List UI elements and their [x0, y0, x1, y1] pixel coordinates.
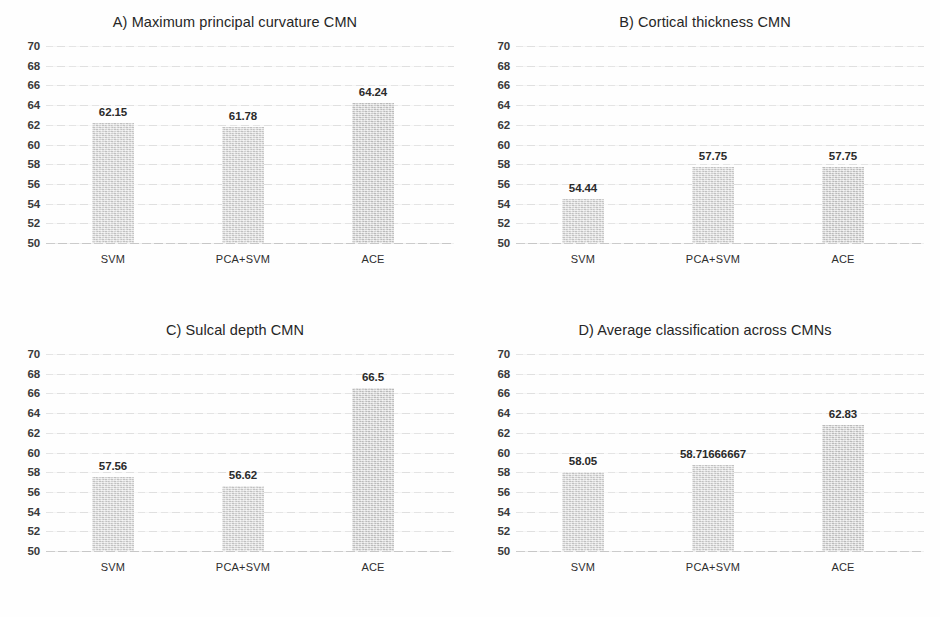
- y-tick-label: 54: [497, 198, 510, 210]
- y-tick-label: 60: [27, 139, 40, 151]
- x-tick-label: PCA+SVM: [686, 253, 740, 265]
- y-tick-label: 52: [497, 217, 510, 229]
- y-tick-label: 62: [497, 119, 510, 131]
- bar-value-label: 66.5: [362, 371, 384, 383]
- y-tick-label: 66: [497, 79, 510, 91]
- y-tick-label: 60: [27, 447, 40, 459]
- bar-pca-svm: [222, 127, 264, 243]
- x-tick-label: SVM: [101, 561, 125, 573]
- panel-b-plot-area: 54.4457.7557.75: [516, 46, 924, 243]
- gridline: [516, 66, 924, 67]
- axis-baseline: [46, 551, 454, 552]
- x-tick-label: PCA+SVM: [686, 561, 740, 573]
- y-tick-label: 56: [27, 486, 40, 498]
- y-tick-label: 66: [27, 79, 40, 91]
- y-tick-label: 66: [27, 387, 40, 399]
- y-tick-label: 52: [27, 525, 40, 537]
- y-tick-label: 68: [27, 368, 40, 380]
- gridline: [46, 85, 454, 86]
- y-tick-label: 52: [27, 217, 40, 229]
- bar-value-label: 57.56: [99, 460, 127, 472]
- y-tick-label: 64: [27, 407, 40, 419]
- x-tick-label: SVM: [571, 253, 595, 265]
- gridline: [516, 164, 924, 165]
- bar-value-label: 62.83: [829, 408, 857, 420]
- x-tick-label: ACE: [831, 253, 854, 265]
- panel-c-plot-area: 57.5656.6266.5: [46, 354, 454, 551]
- y-tick-label: 62: [27, 427, 40, 439]
- gridline: [46, 374, 454, 375]
- gridline: [516, 374, 924, 375]
- y-tick-label: 64: [497, 407, 510, 419]
- gridline: [516, 125, 924, 126]
- y-tick-label: 64: [497, 99, 510, 111]
- chart-panel-b: B) Cortical thickness CMN 70686664626058…: [470, 0, 940, 308]
- bar-value-label: 57.75: [829, 150, 857, 162]
- panel-d-plot-area: 58.0558.7166666762.83: [516, 354, 924, 551]
- x-tick-label: SVM: [571, 561, 595, 573]
- y-tick-label: 58: [27, 466, 40, 478]
- panel-c-title: C) Sulcal depth CMN: [0, 322, 470, 338]
- y-tick-label: 62: [497, 427, 510, 439]
- y-tick-label: 54: [27, 198, 40, 210]
- figure-panel-grid: A) Maximum principal curvature CMN 70686…: [0, 0, 940, 617]
- axis-baseline: [516, 551, 924, 552]
- bar-value-label: 58.05: [569, 455, 597, 467]
- panel-d-x-axis: SVMPCA+SVMACE: [516, 557, 924, 579]
- bar-value-label: 57.75: [699, 150, 727, 162]
- panel-d-y-axis: 7068666462605856545250: [478, 354, 510, 551]
- y-tick-label: 52: [497, 525, 510, 537]
- chart-panel-c: C) Sulcal depth CMN 70686664626058565452…: [0, 308, 470, 617]
- bar-value-label: 64.24: [359, 86, 387, 98]
- gridline: [516, 105, 924, 106]
- y-tick-label: 66: [497, 387, 510, 399]
- axis-baseline: [516, 243, 924, 244]
- y-tick-label: 50: [27, 237, 40, 249]
- axis-baseline: [46, 243, 454, 244]
- panel-b-title: B) Cortical thickness CMN: [470, 14, 940, 30]
- y-tick-label: 50: [27, 545, 40, 557]
- y-tick-label: 58: [497, 158, 510, 170]
- y-tick-label: 56: [497, 178, 510, 190]
- bar-ace: [352, 388, 394, 551]
- bar-ace: [822, 167, 864, 243]
- y-tick-label: 50: [497, 237, 510, 249]
- y-tick-label: 70: [497, 40, 510, 52]
- bar-value-label: 62.15: [99, 106, 127, 118]
- y-tick-label: 58: [497, 466, 510, 478]
- bar-svm: [562, 472, 604, 551]
- gridline: [516, 354, 924, 355]
- x-tick-label: ACE: [361, 253, 384, 265]
- x-tick-label: ACE: [831, 561, 854, 573]
- y-tick-label: 54: [497, 506, 510, 518]
- y-tick-label: 68: [497, 368, 510, 380]
- panel-a-title: A) Maximum principal curvature CMN: [0, 14, 470, 30]
- bar-ace: [352, 103, 394, 243]
- bar-pca-svm: [692, 465, 734, 551]
- gridline: [46, 66, 454, 67]
- y-tick-label: 62: [27, 119, 40, 131]
- gridline: [516, 393, 924, 394]
- gridline: [46, 46, 454, 47]
- y-tick-label: 68: [27, 60, 40, 72]
- bar-value-label: 61.78: [229, 110, 257, 122]
- bar-svm: [562, 199, 604, 243]
- bar-pca-svm: [692, 167, 734, 243]
- gridline: [516, 413, 924, 414]
- panel-c-y-axis: 7068666462605856545250: [8, 354, 40, 551]
- chart-panel-d: D) Average classification across CMNs 70…: [470, 308, 940, 617]
- y-tick-label: 50: [497, 545, 510, 557]
- y-tick-label: 60: [497, 447, 510, 459]
- y-tick-label: 68: [497, 60, 510, 72]
- y-tick-label: 60: [497, 139, 510, 151]
- bar-svm: [92, 123, 134, 243]
- y-tick-label: 56: [27, 178, 40, 190]
- y-tick-label: 70: [27, 40, 40, 52]
- gridline: [516, 85, 924, 86]
- panel-a-y-axis: 7068666462605856545250: [8, 46, 40, 243]
- panel-a-x-axis: SVMPCA+SVMACE: [46, 249, 454, 271]
- bar-value-label: 58.71666667: [680, 448, 746, 460]
- gridline: [516, 145, 924, 146]
- panel-d-title: D) Average classification across CMNs: [470, 322, 940, 338]
- panel-b-x-axis: SVMPCA+SVMACE: [516, 249, 924, 271]
